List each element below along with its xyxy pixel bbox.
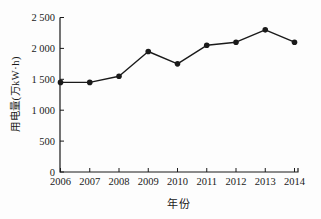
x-axis-tick-label: 2011 xyxy=(196,176,217,187)
data-point-marker xyxy=(204,43,210,49)
x-axis-title: 年份 xyxy=(167,195,191,211)
data-point-marker xyxy=(145,49,151,55)
x-axis-tick-label: 2012 xyxy=(226,176,247,187)
x-axis-tick-label: 2009 xyxy=(138,176,159,187)
data-point-marker xyxy=(233,39,239,45)
axes xyxy=(60,18,298,173)
data-point-marker xyxy=(292,39,298,45)
data-point-marker xyxy=(58,80,64,86)
data-point-marker xyxy=(262,27,268,33)
line-chart: 05001 0001 5002 0002 5002006200720082009… xyxy=(0,0,321,219)
x-axis-tick-label: 2014 xyxy=(284,176,306,187)
y-axis-tick-label: 1 000 xyxy=(31,105,55,116)
y-axis-title: 用电量(万kW·h) xyxy=(7,56,22,132)
y-axis-tick-label: 1 500 xyxy=(31,74,55,85)
data-point-marker xyxy=(87,80,93,86)
y-axis-tick-label: 500 xyxy=(39,136,55,147)
x-axis-tick-label: 2007 xyxy=(79,176,100,187)
data-point-marker xyxy=(175,61,181,67)
y-axis-tick-label: 2 000 xyxy=(31,43,55,54)
x-axis-tick-label: 2010 xyxy=(167,176,188,187)
data-point-marker xyxy=(116,73,122,79)
y-axis-tick-label: 2 500 xyxy=(31,12,55,23)
x-axis-tick-label: 2006 xyxy=(50,176,71,187)
line-chart-figure: 05001 0001 5002 0002 5002006200720082009… xyxy=(0,0,321,219)
data-line xyxy=(61,30,295,83)
x-axis-tick-label: 2008 xyxy=(109,176,130,187)
x-axis-tick-label: 2013 xyxy=(255,176,276,187)
